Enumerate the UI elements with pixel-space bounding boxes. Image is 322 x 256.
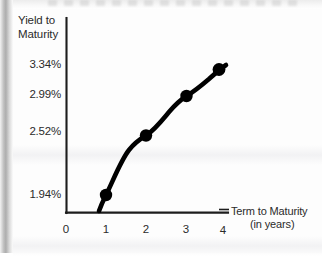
data-point-marker (213, 63, 226, 76)
y-axis-title: Yield to Maturity (18, 14, 58, 41)
x-axis-title-line2: (in years) (231, 218, 307, 231)
y-tick-label-334: 3.34% (15, 58, 61, 72)
x-tick-label-4: 4 (215, 224, 231, 238)
y-tick-label-252: 2.52% (15, 125, 61, 139)
x-tick-label-0: 0 (58, 223, 74, 237)
y-tick-label-299: 2.99% (15, 88, 61, 102)
data-point-marker (100, 189, 112, 201)
data-point-marker (140, 129, 152, 141)
x-tick-label-2: 2 (138, 223, 154, 237)
x-tick-label-3: 3 (178, 223, 194, 237)
x-axis-title: Term to Maturity (in years) (231, 205, 307, 231)
x-tick-label-1: 1 (98, 223, 114, 237)
y-axis-title-line2: Maturity (18, 28, 58, 42)
y-tick-label-194: 1.94% (15, 188, 61, 202)
data-point-marker (180, 90, 192, 102)
x-axis-title-line1: Term to Maturity (231, 205, 307, 217)
y-axis-title-line1: Yield to (18, 14, 58, 28)
yield-curve-line (99, 65, 226, 211)
